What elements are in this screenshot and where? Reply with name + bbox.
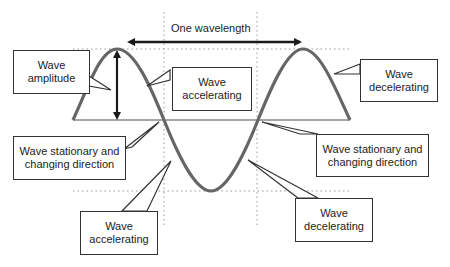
wavelength-label: One wavelength	[171, 22, 251, 34]
callout-wave-decelerating-bottom: Wave decelerating	[295, 198, 373, 242]
wave-diagram: One wavelength Wave amplitude Wave accel…	[0, 0, 450, 267]
callout-wave-stationary-right: Wave stationary and changing direction	[316, 134, 429, 177]
callout-wave-decelerating-top: Wave decelerating	[360, 59, 438, 102]
callout-wave-accelerating-bottom: Wave accelerating	[80, 211, 158, 255]
callout-wave-amplitude: Wave amplitude	[13, 50, 90, 94]
wavelength-arrow-left-head	[127, 38, 135, 46]
callout-wave-stationary-left: Wave stationary and changing direction	[13, 136, 126, 180]
callout-wave-accelerating-top: Wave accelerating	[172, 67, 252, 111]
